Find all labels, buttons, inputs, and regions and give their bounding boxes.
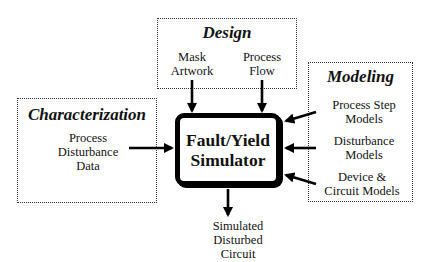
arrow-process-step-models: [286, 112, 316, 121]
arrows-layer: [0, 0, 428, 262]
arrow-device-circuit-models: [286, 175, 316, 184]
